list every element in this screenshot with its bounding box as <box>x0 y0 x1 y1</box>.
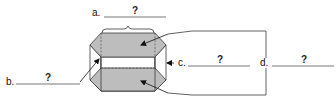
brace-a <box>102 26 154 33</box>
top-base-face <box>90 33 166 57</box>
label-b-answer: ? <box>45 72 51 83</box>
label-d-letter: d. <box>260 57 268 68</box>
label-a-letter: a. <box>92 7 100 18</box>
label-c-answer: ? <box>217 54 223 65</box>
label-d-answer: ? <box>301 54 307 65</box>
label-b-letter: b. <box>6 76 14 87</box>
label-a-answer: ? <box>132 5 138 16</box>
label-c-letter: c. <box>178 57 186 68</box>
prism-diagram: a. ? b. ? c. ? d. ? <box>0 0 336 101</box>
connector-d-bottom <box>168 68 266 95</box>
